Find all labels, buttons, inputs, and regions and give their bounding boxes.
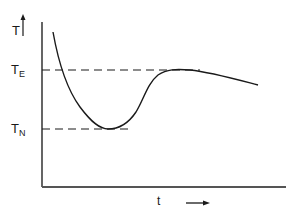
diagram-canvas bbox=[0, 0, 294, 214]
diagram: T TE TN t bbox=[0, 0, 294, 214]
x-axis-label: t bbox=[157, 195, 160, 207]
temperature-curve bbox=[53, 32, 258, 129]
x-axis-arrow-icon bbox=[186, 201, 210, 206]
tn-label: TN bbox=[11, 122, 25, 138]
y-axis-arrow-icon bbox=[21, 14, 26, 36]
y-axis-label: T bbox=[12, 24, 20, 37]
te-label: TE bbox=[11, 63, 25, 79]
